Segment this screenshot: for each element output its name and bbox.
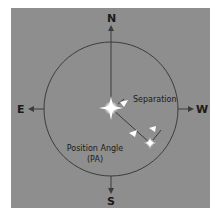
east-arrow [28, 106, 44, 112]
diagram-graphics [0, 0, 222, 222]
west-arrow [178, 106, 194, 112]
east-label: E [17, 104, 25, 115]
marker-arrow-icon [149, 126, 156, 132]
position-angle-label: Position Angle (PA) [62, 145, 128, 164]
separation-label: Separation [133, 96, 177, 104]
marker-arrow-icon [129, 130, 137, 137]
separation-tick [153, 130, 161, 140]
north-label: N [107, 13, 116, 24]
position-angle-line1: Position Angle [62, 145, 128, 153]
west-label: W [196, 104, 208, 115]
separation-line [111, 108, 150, 143]
north-arrow [108, 25, 114, 108]
primary-star-icon [99, 96, 123, 120]
south-label: S [107, 196, 115, 207]
position-angle-line2: (PA) [62, 156, 128, 164]
south-arrow [108, 176, 114, 194]
